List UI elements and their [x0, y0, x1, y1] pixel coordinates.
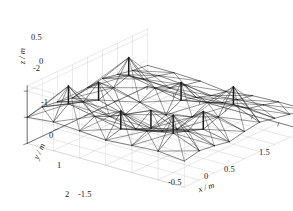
- x-tick-label-1: -0.5: [168, 178, 181, 187]
- x-tick-label-0: -1.5: [78, 190, 91, 199]
- y-tick-label-2: 0: [49, 131, 53, 140]
- z-axis-title: z / m: [18, 48, 27, 64]
- y-tick-label-3: 1: [57, 161, 61, 170]
- z-axis-title-text: z / m: [17, 48, 27, 64]
- figure-3d-surface-plot: 0.5 0 -2 -1 0 1 2 -1.5 -0.5 0 0.5 1.5 z …: [0, 0, 293, 211]
- surface-mesh: [27, 58, 293, 162]
- y-tick-label-4: 2: [65, 190, 69, 199]
- y-tick-label-1: -1: [41, 98, 48, 107]
- background-grid: [27, 29, 293, 187]
- y-tick-label-0: -2: [33, 64, 40, 73]
- x-tick-label-2: 0: [204, 172, 208, 181]
- x-tick-label-3: 0.5: [224, 165, 235, 174]
- x-tick-label-4: 1.5: [259, 148, 270, 157]
- axis-lines: [24, 86, 293, 145]
- z-tick-label-0: 0.5: [31, 33, 42, 42]
